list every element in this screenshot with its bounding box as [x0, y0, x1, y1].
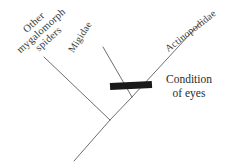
character-state-marker-bar [110, 81, 152, 90]
character-label-line-2: of eyes [166, 87, 212, 101]
branch-inner-node-link [110, 97, 132, 120]
cladogram-figure: Other mygalomorph spiders Migidae Actino… [0, 0, 233, 164]
character-label-line-1: Condition [166, 73, 212, 87]
branch-other-mygalomorph-spiders [44, 57, 110, 120]
branch-root-stem [74, 120, 110, 161]
character-label-condition-of-eyes: Condition of eyes [166, 73, 212, 100]
